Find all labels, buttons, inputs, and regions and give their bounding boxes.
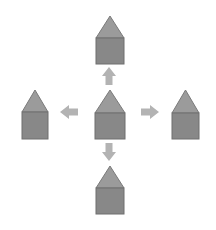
house-center-body	[95, 113, 125, 139]
house-top-body	[96, 38, 124, 64]
house-right-body	[172, 113, 199, 139]
diagram-svg	[0, 0, 216, 230]
diagram-canvas	[0, 0, 216, 230]
house-bottom-body	[96, 188, 124, 214]
house-left-body	[22, 112, 48, 139]
